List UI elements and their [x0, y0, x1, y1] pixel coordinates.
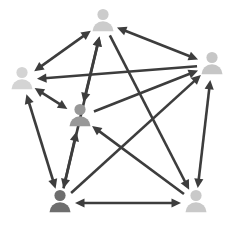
person-body [202, 64, 223, 74]
edge-center-to-bottom_left [61, 132, 79, 189]
node-bottom_left[interactable] [50, 190, 71, 212]
edge-top-to-bottom_right [110, 35, 189, 189]
edge-left-to-top [34, 31, 91, 72]
arrowhead-reverse [205, 80, 214, 90]
edge-line [124, 30, 191, 56]
person-body [50, 202, 71, 212]
person-head [74, 104, 85, 115]
arrowhead-reverse [75, 198, 85, 207]
edge-line [44, 66, 197, 78]
person-head [97, 9, 108, 20]
node-center[interactable] [70, 104, 91, 126]
arrowhead-forward [48, 178, 57, 188]
edge-line [199, 87, 210, 180]
edge-bottom_left-to-bottom_right [75, 198, 181, 207]
nodes-layer [12, 9, 223, 212]
person-icon [186, 190, 207, 212]
network-diagram-canvas [0, 0, 233, 232]
person-body [12, 79, 33, 89]
person-icon [12, 67, 33, 89]
person-icon [50, 190, 71, 212]
node-bottom_right[interactable] [186, 190, 207, 212]
arrowhead-forward [93, 37, 102, 47]
arrowhead-forward [194, 178, 203, 188]
edge-line [41, 92, 61, 105]
person-head [16, 67, 27, 78]
edge-right-to-bottom_right [194, 80, 213, 188]
node-top[interactable] [93, 9, 114, 31]
edge-line [65, 139, 75, 181]
edges-layer [25, 27, 214, 208]
arrowhead-reverse [25, 94, 34, 104]
person-icon [93, 9, 114, 31]
person-head [206, 52, 217, 63]
node-left[interactable] [12, 67, 33, 89]
person-icon [202, 52, 223, 74]
edge-line [110, 35, 186, 183]
edge-line [40, 35, 84, 67]
person-head [190, 190, 201, 201]
arrowhead-forward [61, 178, 70, 188]
person-head [54, 190, 65, 201]
person-icon [70, 104, 91, 126]
edge-left-to-center [35, 88, 68, 109]
node-right[interactable] [202, 52, 223, 74]
arrowhead-forward [172, 198, 182, 207]
edge-top-to-right [117, 27, 198, 61]
edge-line [94, 73, 191, 111]
arrowhead-forward [37, 73, 47, 82]
person-body [186, 202, 207, 212]
edge-line [98, 130, 184, 194]
edge-left-to-bottom_left [25, 94, 57, 188]
person-body [93, 21, 114, 31]
network-graph [0, 0, 233, 232]
person-body [70, 116, 91, 126]
edge-line [29, 101, 54, 181]
